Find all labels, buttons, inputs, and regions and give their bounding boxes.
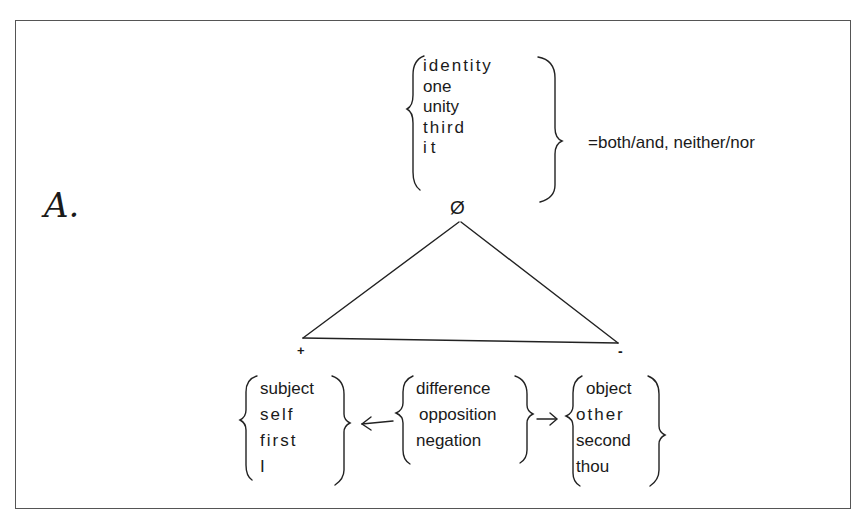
top-left-brace: [407, 56, 424, 190]
apex-empty-set-symbol: Ø: [450, 197, 465, 219]
left-group-left-brace: [240, 376, 257, 480]
triangle-left-edge: [303, 222, 459, 338]
right-group-right-brace: [648, 376, 665, 486]
term-one: one: [423, 77, 493, 98]
top-right-brace: [538, 57, 562, 202]
top-group-terms: identity one unity third it: [423, 56, 493, 159]
middle-left-brace: [396, 376, 413, 464]
plus-sign: +: [297, 343, 305, 358]
term-second: second: [576, 428, 631, 454]
arrow-left-shaft: [362, 421, 393, 424]
term-third: third: [423, 118, 493, 139]
middle-group-terms: difference opposition negation: [416, 376, 497, 454]
term-thou: thou: [576, 454, 631, 480]
figure-label: A.: [44, 185, 79, 225]
triangle-right-edge: [461, 222, 618, 343]
term-unity: unity: [423, 97, 493, 118]
left-group-right-brace: [332, 376, 350, 485]
term-other: other: [576, 402, 631, 428]
triangle-base: [303, 338, 618, 343]
right-group-terms: object other second thou: [576, 376, 631, 480]
term-negation: negation: [416, 428, 497, 454]
term-it: it: [423, 138, 493, 159]
term-identity: identity: [423, 56, 493, 77]
term-object: object: [576, 376, 631, 402]
minus-sign: -: [618, 343, 623, 359]
left-group-terms: subject self first I: [260, 376, 314, 480]
term-subject: subject: [260, 376, 314, 402]
term-i: I: [260, 454, 314, 480]
term-first: first: [260, 428, 314, 454]
middle-right-brace: [515, 376, 533, 463]
top-group-annotation: =both/and, neither/nor: [588, 133, 755, 153]
term-difference: difference: [416, 376, 497, 402]
term-self: self: [260, 402, 314, 428]
term-opposition: opposition: [416, 402, 497, 428]
